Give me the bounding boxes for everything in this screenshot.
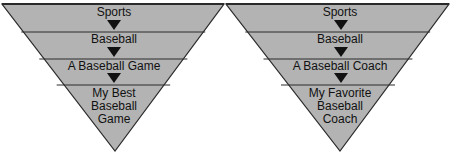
level-label: Baseball <box>290 33 390 46</box>
level-label: Sports <box>64 6 164 19</box>
level-label: Game <box>64 113 164 126</box>
level-label: A Baseball Coach <box>280 60 400 73</box>
level-label: Sports <box>290 6 390 19</box>
level-label: Coach <box>290 113 390 126</box>
level-label: Baseball <box>64 33 164 46</box>
funnel-diagrams <box>0 0 450 154</box>
funnel-left <box>2 4 224 151</box>
level-label: A Baseball Game <box>54 60 174 73</box>
funnel-right <box>226 4 449 151</box>
